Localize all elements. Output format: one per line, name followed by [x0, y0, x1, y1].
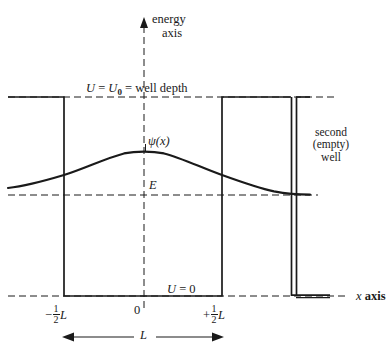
x-tick-label-right: +12L [203, 304, 225, 326]
x-axis-label: x axis [356, 290, 386, 304]
energy-axis-label-line1: energy [152, 13, 186, 27]
well-depth-text: well depth [135, 81, 187, 95]
figure-canvas [0, 0, 392, 348]
right-tick-numerator: 1 [211, 304, 218, 314]
x-tick-label-origin: 0 [134, 304, 140, 318]
second-well-label-line3: well [302, 151, 360, 163]
well-depth-equals-2: = [125, 81, 132, 95]
well-depth-U-symbol: U [86, 81, 95, 95]
energy-axis-label: energy axis [152, 13, 186, 40]
u-zero-value: 0 [189, 282, 195, 296]
left-tick-numerator: 1 [53, 304, 60, 314]
left-tick-denominator: 2 [53, 314, 60, 326]
left-tick-sign: − [45, 308, 52, 322]
potential-well-figure: energy axis U = U0 = well depth ψ(x) E s… [0, 0, 392, 348]
right-tick-L: L [218, 308, 225, 322]
x-tick-label-left: −12L [45, 304, 67, 326]
second-well-label-line2: (empty) [302, 138, 360, 150]
second-well-label: second (empty) well [302, 126, 360, 163]
wavefunction-curve [8, 152, 310, 195]
u-zero-symbol: U [167, 282, 176, 296]
energy-axis-arrowhead-icon [140, 17, 148, 28]
right-tick-denominator: 2 [211, 314, 218, 326]
left-tick-L: L [60, 308, 67, 322]
right-tick-sign: + [203, 308, 210, 322]
well-depth-subscript: 0 [117, 87, 122, 97]
u-zero-label: U = 0 [167, 283, 196, 297]
well-width-label: L [140, 329, 147, 343]
well-depth-equals-1: = [98, 81, 105, 95]
u-zero-equals: = [179, 282, 186, 296]
potential-well-outline [8, 97, 291, 296]
energy-level-label: E [149, 179, 157, 193]
energy-axis-label-line2: axis [152, 27, 186, 41]
well-depth-label: U = U0 = well depth [86, 82, 188, 97]
second-well-label-line1: second [302, 126, 360, 138]
left-tick-fraction: 12 [53, 304, 60, 326]
width-arrowhead-right-icon [212, 333, 224, 342]
wavefunction-label: ψ(x) [148, 135, 170, 149]
width-arrowhead-left-icon [62, 333, 74, 342]
right-tick-fraction: 12 [211, 304, 218, 326]
